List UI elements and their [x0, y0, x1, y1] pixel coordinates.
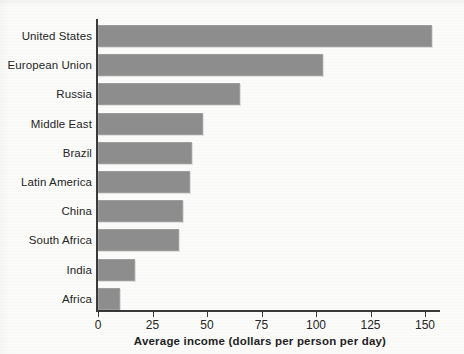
- x-axis-tick-label: 25: [146, 318, 159, 332]
- x-axis-tick: [262, 311, 263, 317]
- bar: [98, 113, 203, 135]
- x-axis-tick-label: 100: [306, 318, 326, 332]
- x-axis-tick-label: 75: [255, 318, 268, 332]
- x-axis-tick: [207, 311, 208, 317]
- x-axis-tick: [153, 311, 154, 317]
- y-axis-label: Russia: [4, 83, 92, 105]
- x-axis-title-text: Average income (dollars per person per d…: [78, 335, 386, 347]
- bar: [98, 171, 190, 193]
- x-axis-tick-label: 150: [415, 318, 435, 332]
- y-axis-label: South Africa: [4, 229, 92, 251]
- x-axis-title: Average income (dollars per person per d…: [0, 335, 464, 347]
- y-axis-label: Latin America: [4, 171, 92, 193]
- y-axis-label: India: [4, 259, 92, 281]
- y-axis-label: China: [4, 200, 92, 222]
- bar: [98, 229, 179, 251]
- bar: [98, 142, 192, 164]
- plot-area: [98, 20, 425, 311]
- bar-chart-figure: United StatesEuropean UnionRussiaMiddle …: [0, 0, 464, 354]
- y-axis-category-labels: United StatesEuropean UnionRussiaMiddle …: [0, 20, 92, 311]
- x-axis-tick-label: 0: [95, 318, 102, 332]
- y-axis-label: Middle East: [4, 113, 92, 135]
- x-axis-tick: [371, 311, 372, 317]
- bar: [98, 25, 432, 47]
- bar: [98, 259, 135, 281]
- y-axis-label: Brazil: [4, 142, 92, 164]
- x-axis-tick: [98, 311, 99, 317]
- x-axis-tick: [425, 311, 426, 317]
- y-axis-label: United States: [4, 25, 92, 47]
- bar: [98, 54, 323, 76]
- bar: [98, 83, 240, 105]
- y-axis-label: Africa: [4, 288, 92, 310]
- bar: [98, 200, 183, 222]
- bar: [98, 288, 120, 310]
- x-axis-tick-label: 125: [360, 318, 380, 332]
- y-axis-label: European Union: [4, 54, 92, 76]
- x-axis-tick: [316, 311, 317, 317]
- x-axis-tick-label: 50: [200, 318, 213, 332]
